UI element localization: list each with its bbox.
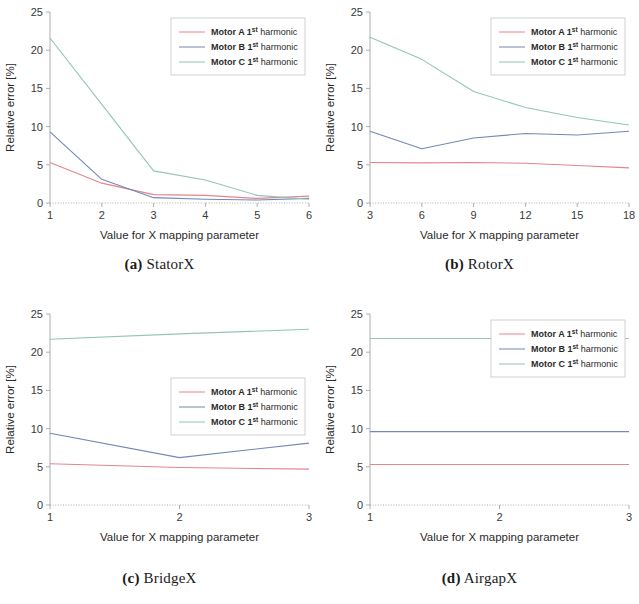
subcaption-title-a: StatorX	[146, 256, 194, 272]
x-tick-label: 3	[306, 511, 312, 523]
series-line-motor-a	[50, 464, 309, 469]
subcaption-a: (a) StatorX	[0, 256, 319, 273]
y-tick-label: 0	[357, 499, 363, 511]
x-tick-label: 2	[99, 209, 105, 221]
legend: Motor A 1st harmonicMotor B 1st harmonic…	[491, 320, 625, 377]
x-axis-title: Value for X mapping parameter	[420, 531, 579, 543]
series-line-motor-a	[370, 163, 629, 168]
y-tick-label: 10	[351, 423, 363, 435]
x-tick-label: 1	[367, 511, 373, 523]
y-axis-title: Relative error [%]	[4, 63, 16, 152]
y-tick-label: 20	[351, 346, 363, 358]
subcaption-letter-a: (a)	[124, 256, 142, 272]
plot-svg-c: 0510152025123Value for X mapping paramet…	[0, 302, 319, 552]
y-tick-label: 10	[351, 121, 363, 133]
figure-panel-grid: 0510152025123456Value for X mapping para…	[0, 0, 639, 604]
y-tick-label: 5	[357, 159, 363, 171]
x-axis-title: Value for X mapping parameter	[100, 531, 259, 543]
x-tick-label: 12	[519, 209, 531, 221]
y-tick-label: 20	[31, 346, 43, 358]
subcaption-c: (c) BridgeX	[0, 570, 319, 587]
y-tick-label: 25	[31, 308, 43, 320]
chart-panel-b: 0510152025369121518Value for X mapping p…	[320, 0, 639, 302]
y-tick-label: 20	[351, 44, 363, 56]
y-tick-label: 0	[37, 499, 43, 511]
series-line-motor-c	[50, 329, 309, 339]
y-axis-title: Relative error [%]	[324, 63, 336, 152]
series-line-motor-b	[370, 131, 629, 149]
plot-svg-d: 0510152025123Value for X mapping paramet…	[320, 302, 639, 552]
x-axis-title: Value for X mapping parameter	[420, 229, 579, 241]
y-tick-label: 20	[31, 44, 43, 56]
y-tick-label: 25	[351, 6, 363, 18]
x-tick-label: 2	[176, 511, 182, 523]
subcaption-title-b: RotorX	[468, 256, 514, 272]
y-tick-label: 5	[37, 159, 43, 171]
y-tick-label: 15	[351, 82, 363, 94]
chart-panel-c: 0510152025123Value for X mapping paramet…	[0, 302, 319, 604]
y-tick-label: 25	[351, 308, 363, 320]
y-axis-title: Relative error [%]	[4, 365, 16, 454]
x-tick-label: 2	[496, 511, 502, 523]
x-tick-label: 6	[306, 209, 312, 221]
x-tick-label: 9	[471, 209, 477, 221]
subcaption-b: (b) RotorX	[320, 256, 639, 273]
series-line-motor-b	[50, 132, 309, 200]
subcaption-title-c: BridgeX	[144, 570, 197, 586]
x-axis-title: Value for X mapping parameter	[100, 229, 259, 241]
plot-area-a: 0510152025123456Value for X mapping para…	[0, 0, 319, 250]
subcaption-title-d: AirgapX	[464, 570, 518, 586]
y-tick-label: 10	[31, 423, 43, 435]
plot-area-b: 0510152025369121518Value for X mapping p…	[320, 0, 639, 250]
x-tick-label: 3	[151, 209, 157, 221]
chart-panel-a: 0510152025123456Value for X mapping para…	[0, 0, 319, 302]
x-tick-label: 15	[571, 209, 583, 221]
legend: Motor A 1st harmonicMotor B 1st harmonic…	[171, 18, 305, 75]
plot-area-c: 0510152025123Value for X mapping paramet…	[0, 302, 319, 552]
y-tick-label: 15	[31, 82, 43, 94]
x-tick-label: 6	[419, 209, 425, 221]
y-tick-label: 15	[31, 384, 43, 396]
plot-svg-a: 0510152025123456Value for X mapping para…	[0, 0, 319, 250]
subcaption-letter-d: (d)	[442, 570, 461, 586]
series-line-motor-b	[50, 433, 309, 457]
x-tick-label: 4	[202, 209, 208, 221]
x-tick-label: 1	[47, 209, 53, 221]
y-tick-label: 5	[37, 461, 43, 473]
y-tick-label: 0	[37, 197, 43, 209]
x-tick-label: 18	[623, 209, 635, 221]
x-tick-label: 3	[367, 209, 373, 221]
y-tick-label: 5	[357, 461, 363, 473]
y-tick-label: 10	[31, 121, 43, 133]
subcaption-d: (d) AirgapX	[320, 570, 639, 587]
y-tick-label: 0	[357, 197, 363, 209]
x-tick-label: 1	[47, 511, 53, 523]
chart-panel-d: 0510152025123Value for X mapping paramet…	[320, 302, 639, 604]
plot-area-d: 0510152025123Value for X mapping paramet…	[320, 302, 639, 552]
y-axis-title: Relative error [%]	[324, 365, 336, 454]
y-tick-label: 25	[31, 6, 43, 18]
x-tick-label: 3	[626, 511, 632, 523]
plot-svg-b: 0510152025369121518Value for X mapping p…	[320, 0, 639, 250]
subcaption-letter-b: (b)	[445, 256, 464, 272]
y-tick-label: 15	[351, 384, 363, 396]
legend: Motor A 1st harmonicMotor B 1st harmonic…	[171, 378, 305, 435]
legend: Motor A 1st harmonicMotor B 1st harmonic…	[491, 18, 625, 75]
x-tick-label: 5	[254, 209, 260, 221]
subcaption-letter-c: (c)	[122, 570, 139, 586]
